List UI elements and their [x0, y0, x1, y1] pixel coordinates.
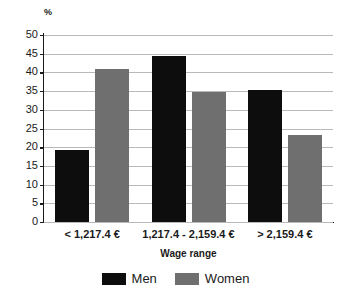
gridline [44, 129, 333, 130]
y-axis-tick [40, 222, 44, 223]
bar-chart: % 50454035302520151050 < 1,217.4 €1,217.… [0, 0, 351, 303]
bar-men-1 [152, 56, 186, 222]
y-axis-tick [40, 203, 44, 204]
plot-area [44, 35, 333, 222]
legend-item-men[interactable]: Men [102, 272, 157, 285]
y-axis-tick [40, 72, 44, 73]
y-axis-tick-label: 25 [26, 123, 38, 134]
y-axis-tick-label: 35 [26, 85, 38, 96]
bar-women-1 [192, 92, 226, 222]
gridline [44, 222, 333, 223]
x-axis-category-label: < 1,217.4 € [44, 228, 140, 240]
x-axis-title: Wage range [44, 248, 333, 259]
y-axis-tick-label: 5 [32, 197, 38, 208]
y-axis-tick-label: 50 [26, 29, 38, 40]
y-axis-tick-label: 0 [32, 216, 38, 227]
y-axis-tick [40, 166, 44, 167]
black-square-icon [102, 273, 126, 285]
y-axis-unit-label: % [44, 8, 52, 17]
chart-legend: MenWomen [0, 272, 351, 285]
y-axis-tick-label: 40 [26, 66, 38, 77]
y-axis-tick [40, 185, 44, 186]
y-axis-tick [40, 35, 44, 36]
gridline [44, 35, 333, 36]
x-axis-category-labels: < 1,217.4 €1,217.4 - 2,159.4 €> 2,159.4 … [44, 228, 333, 246]
bar-men-2 [248, 90, 282, 222]
y-axis-tick [40, 129, 44, 130]
y-axis-tick-label: 45 [26, 48, 38, 59]
y-axis-tick-label: 20 [26, 141, 38, 152]
legend-label: Women [205, 272, 250, 285]
x-axis-category-label: 1,217.4 - 2,159.4 € [140, 228, 236, 240]
y-axis-tick-label: 10 [26, 179, 38, 190]
gridline [44, 72, 333, 73]
y-axis-tick [40, 91, 44, 92]
y-axis-tick-label: 30 [26, 104, 38, 115]
gridline [44, 110, 333, 111]
bar-women-0 [95, 69, 129, 222]
gridline [44, 54, 333, 55]
legend-item-women[interactable]: Women [175, 272, 250, 285]
y-axis-tick-labels: 50454035302520151050 [0, 35, 38, 222]
gridline [44, 91, 333, 92]
y-axis-tick-label: 15 [26, 160, 38, 171]
bar-women-2 [288, 135, 322, 222]
bar-men-0 [55, 150, 89, 222]
y-axis-tick [40, 110, 44, 111]
gray-square-icon [175, 273, 199, 285]
y-axis-tick [40, 54, 44, 55]
x-axis-category-label: > 2,159.4 € [237, 228, 333, 240]
y-axis-tick [40, 147, 44, 148]
legend-label: Men [132, 272, 157, 285]
